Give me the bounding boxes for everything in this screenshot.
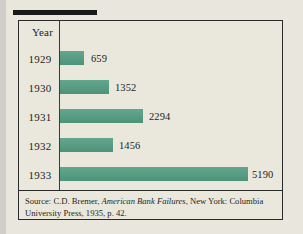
bar-row: 1932 1456 [19,132,282,162]
bar-row: 1931 2294 [19,103,282,133]
bar [60,51,84,65]
bar-row: 1930 1352 [19,74,282,104]
bar-row-category: 1933 [23,169,57,181]
year-column-header: Year [26,26,59,38]
plot-area: Year 1929 659 1930 1352 1931 2294 19 [19,21,282,190]
bar-value-label: 2294 [149,111,170,122]
bar [60,80,109,94]
chart-frame: Year 1929 659 1930 1352 1931 2294 19 [18,20,283,220]
bar-value-label: 5190 [252,169,273,180]
bar-value-label: 1456 [119,140,140,151]
source-divider [19,190,282,191]
bar-value-label: 1352 [115,82,136,93]
bar-row: 1933 5190 [19,161,282,191]
source-work-title: American Bank Failures [102,196,186,206]
figure-page: Year 1929 659 1930 1352 1931 2294 19 [0,0,303,234]
bar [60,109,143,123]
source-note: Source: C.D. Bremer, American Bank Failu… [25,196,276,219]
bar-row-category: 1930 [23,82,57,94]
bar [60,138,113,152]
bar-row: 1929 659 [19,45,282,75]
bar-value-label: 659 [91,53,107,64]
top-rule-decoration [13,10,97,15]
bar-row-category: 1929 [23,53,57,65]
bar-row-category: 1932 [23,140,57,152]
source-prefix: Source: C.D. Bremer, [25,196,99,206]
bar [60,167,248,181]
bar-row-category: 1931 [23,111,57,123]
